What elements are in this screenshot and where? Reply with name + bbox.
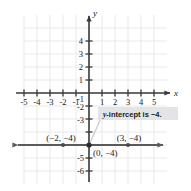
point-label-right: (3, −4)	[117, 133, 142, 143]
coordinate-plane-svg: x y -5 -4 -3 -2 -1 1 2 3 4 5 4 3 2 1 -1 …	[0, 0, 191, 191]
x-tick-label: 4	[139, 97, 144, 107]
callout-box: y-intercept is −4.	[98, 107, 178, 120]
point-label-origin: (0, −4)	[93, 148, 118, 158]
callout-leader-line	[90, 118, 101, 143]
x-axis-label: x	[173, 88, 178, 98]
x-tick-label: 3	[126, 97, 130, 107]
graph-figure: x y -5 -4 -3 -2 -1 1 2 3 4 5 4 3 2 1 -1 …	[0, 0, 191, 191]
x-tick-label: -4	[33, 97, 41, 107]
y-tick-label: -5	[77, 153, 84, 163]
grid-lines	[24, 15, 167, 184]
y-tick-labels-negative: -1 -2 -3 -5 -6	[77, 94, 84, 176]
y-tick-labels-positive: 4 3 2 1	[79, 36, 84, 85]
x-tick-label: 1	[100, 97, 104, 107]
y-tick-label: -6	[77, 166, 84, 176]
x-tick-label: -3	[46, 97, 53, 107]
x-tick-label: -5	[20, 97, 27, 107]
y-tick-label: -3	[77, 115, 84, 125]
callout-label: y-intercept is −4.	[102, 110, 162, 119]
x-tick-label: -2	[59, 97, 66, 107]
y-tick-label: 2	[79, 62, 83, 72]
y-axis-label: y	[92, 8, 97, 18]
y-tick-label: -2	[77, 102, 84, 112]
point-marker	[126, 143, 130, 147]
y-tick-label: 3	[79, 49, 83, 59]
point-label-left: (−2, −4)	[46, 133, 76, 143]
x-tick-label: 5	[152, 97, 156, 107]
point-marker	[61, 143, 65, 147]
x-tick-label: 2	[113, 97, 117, 107]
point-marker	[86, 142, 91, 147]
y-tick-label: 1	[79, 75, 83, 85]
callout-body: -intercept is −4.	[106, 110, 161, 119]
